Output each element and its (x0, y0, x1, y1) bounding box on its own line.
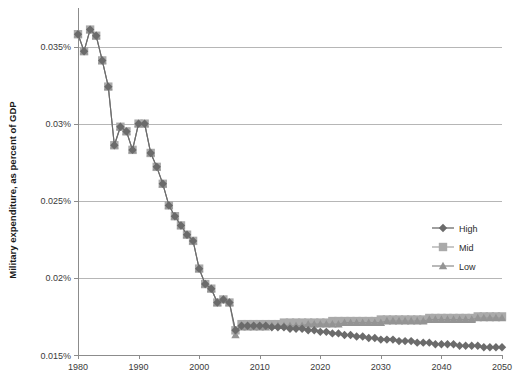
axes-group (74, 8, 503, 359)
data-point (358, 332, 366, 340)
legend-label-high: High (459, 224, 478, 234)
series-line-low (78, 30, 502, 335)
legend-group: HighMidLow (432, 224, 478, 272)
gridlines-group (78, 48, 502, 356)
military-expenditure-line-chart: 0.035%0.03%0.025%0.02%0.015% 19801990200… (0, 0, 519, 382)
data-point (346, 331, 354, 339)
legend-label-mid: Mid (459, 243, 474, 253)
x-tick-label-4: 2020 (310, 362, 330, 372)
y-tick-labels-group: 0.035%0.03%0.025%0.02%0.015% (40, 42, 71, 360)
x-tick-label-1: 1990 (129, 362, 149, 372)
x-tick-label-2: 2000 (189, 362, 209, 372)
series-line-high (78, 30, 502, 348)
series-high (74, 25, 506, 351)
x-tick-label-0: 1980 (68, 362, 88, 372)
legend-item-high[interactable]: High (432, 224, 478, 234)
data-point (425, 338, 433, 346)
data-point (407, 337, 415, 345)
x-tick-label-6: 2040 (431, 362, 451, 372)
data-point (498, 343, 506, 351)
legend-label-low: Low (459, 262, 476, 272)
data-point (371, 334, 379, 342)
data-point (449, 340, 457, 348)
data-point (389, 335, 397, 343)
x-tick-label-3: 2010 (250, 362, 270, 372)
legend-marker-square-icon (439, 243, 447, 251)
legend-item-mid[interactable]: Mid (432, 243, 474, 253)
series-group (74, 25, 506, 351)
y-axis-title-group: Military expenditure, as percent of GDP (7, 101, 18, 279)
series-low (74, 25, 506, 338)
x-tick-label-5: 2030 (371, 362, 391, 372)
data-point (474, 342, 482, 350)
data-point (322, 328, 330, 336)
y-tick-label-3: 0.02% (45, 273, 71, 283)
x-tick-label-7: 2050 (492, 362, 512, 372)
x-tick-labels-group: 19801990200020102020203020402050 (68, 362, 512, 372)
chart-container: 0.035%0.03%0.025%0.02%0.015% 19801990200… (0, 0, 519, 382)
data-point (334, 329, 342, 337)
y-axis-title: Military expenditure, as percent of GDP (7, 101, 18, 279)
y-tick-label-1: 0.03% (45, 119, 71, 129)
y-tick-label-0: 0.035% (40, 42, 71, 52)
series-line-mid (78, 30, 502, 331)
legend-marker-diamond-icon (439, 224, 447, 232)
legend-item-low[interactable]: Low (432, 262, 476, 272)
y-tick-label-4: 0.015% (40, 351, 71, 361)
series-mid (74, 25, 506, 334)
y-tick-label-2: 0.025% (40, 196, 71, 206)
